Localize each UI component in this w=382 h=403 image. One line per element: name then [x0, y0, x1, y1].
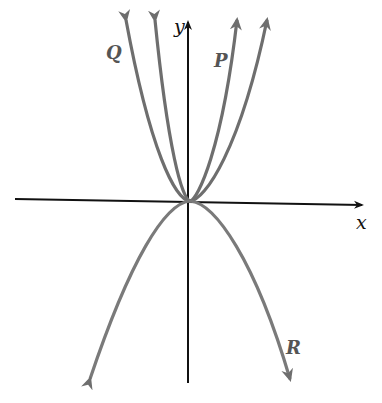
x-axis-label: x [356, 211, 367, 233]
curve-label-p: P [214, 50, 228, 71]
curve-label-q: Q [106, 42, 122, 63]
curve-r-downward-parabola [90, 201, 290, 379]
curve-label-r: R [286, 337, 301, 358]
curve-q-wide-parabola [126, 20, 267, 201]
diagram-canvas [0, 0, 382, 403]
y-axis-label: y [174, 15, 185, 37]
parabola-diagram: y x Q P R [0, 0, 382, 403]
